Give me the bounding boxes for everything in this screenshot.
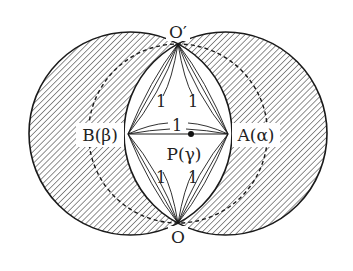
label-edge-upper-left: 1 (156, 92, 166, 111)
diagram-svg: O′ O B(β) A(α) P(γ) 1 1 1 1 1 (0, 0, 353, 271)
label-edge-middle: 1 (172, 116, 182, 135)
diagram-canvas: O′ O B(β) A(α) P(γ) 1 1 1 1 1 (0, 0, 353, 271)
label-o: O (171, 227, 185, 247)
label-b: B(β) (82, 125, 118, 145)
label-edge-lower-right: 1 (188, 168, 198, 187)
point-p-dot (188, 131, 194, 137)
label-p: P(γ) (167, 144, 202, 164)
label-a: A(α) (236, 125, 274, 145)
label-edge-upper-right: 1 (188, 92, 198, 111)
label-o-prime: O′ (169, 22, 187, 42)
label-edge-lower-left: 1 (156, 168, 166, 187)
